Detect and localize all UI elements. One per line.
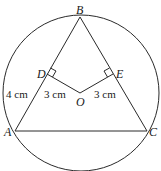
label-c: C bbox=[149, 125, 158, 139]
right-angle-mark-d bbox=[51, 68, 57, 77]
geometry-diagram: B A C D E O 4 cm 3 cm 3 cm bbox=[0, 0, 161, 171]
side-bc bbox=[80, 17, 147, 131]
label-e: E bbox=[115, 67, 124, 81]
measure-ad: 4 cm bbox=[6, 88, 28, 100]
label-o: O bbox=[76, 95, 85, 109]
label-b: B bbox=[76, 3, 84, 17]
measure-oe: 3 cm bbox=[94, 88, 116, 100]
label-d: D bbox=[36, 67, 46, 81]
measure-od: 3 cm bbox=[44, 88, 66, 100]
right-angle-mark-e bbox=[104, 68, 110, 77]
label-a: A bbox=[3, 125, 12, 139]
